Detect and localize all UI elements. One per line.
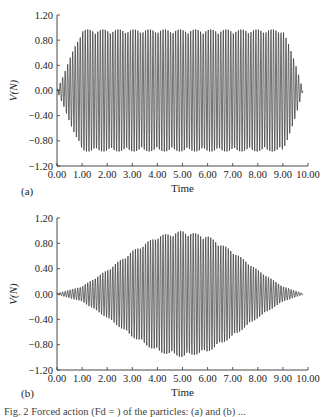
x-tick-label: 8.00 bbox=[249, 169, 267, 180]
x-tick-label: 10.00 bbox=[296, 373, 320, 384]
x-tick-label: 9.00 bbox=[274, 169, 292, 180]
chart-b: 1.200.800.400.00−0.40−0.80−1.200.001.002… bbox=[7, 213, 320, 401]
y-tick-label: 0.40 bbox=[35, 60, 53, 71]
y-tick-label: 1.20 bbox=[35, 213, 53, 224]
y-tick-label: −0.40 bbox=[29, 314, 53, 325]
x-tick-label: 7.00 bbox=[224, 169, 242, 180]
x-tick-label: 8.00 bbox=[249, 373, 267, 384]
y-tick-label: 0.80 bbox=[35, 238, 53, 249]
y-tick-label: 1.20 bbox=[35, 10, 53, 21]
y-tick-label: 0.00 bbox=[35, 289, 53, 300]
x-tick-label: 0.00 bbox=[48, 373, 66, 384]
x-tick-label: 9.00 bbox=[274, 373, 292, 384]
x-tick-label: 2.00 bbox=[98, 373, 116, 384]
x-axis-title: Time bbox=[171, 386, 194, 398]
y-tick-label: 0.00 bbox=[35, 85, 53, 96]
signal-line bbox=[57, 29, 303, 151]
y-tick-label: −0.80 bbox=[29, 135, 53, 146]
x-tick-label: 1.00 bbox=[73, 169, 91, 180]
signal-line bbox=[57, 231, 303, 357]
x-tick-label: 6.00 bbox=[198, 169, 216, 180]
y-tick-label: 0.80 bbox=[35, 35, 53, 46]
x-tick-label: 10.00 bbox=[296, 169, 320, 180]
x-tick-label: 3.00 bbox=[123, 169, 141, 180]
y-axis-title: V(N) bbox=[7, 79, 20, 101]
y-tick-label: 0.40 bbox=[35, 263, 53, 274]
x-tick-label: 0.00 bbox=[48, 169, 66, 180]
x-tick-label: 7.00 bbox=[224, 373, 242, 384]
y-axis-title: V(N) bbox=[7, 283, 20, 305]
x-tick-label: 6.00 bbox=[198, 373, 216, 384]
panel-label: (b) bbox=[21, 387, 34, 400]
x-tick-label: 5.00 bbox=[173, 373, 191, 384]
x-axis-title: Time bbox=[171, 182, 194, 194]
y-tick-label: −0.80 bbox=[29, 339, 53, 350]
panel-label: (a) bbox=[21, 185, 34, 198]
x-tick-label: 5.00 bbox=[173, 169, 191, 180]
x-tick-label: 4.00 bbox=[148, 169, 166, 180]
x-tick-label: 1.00 bbox=[73, 373, 91, 384]
x-tick-label: 3.00 bbox=[123, 373, 141, 384]
figure: 1.200.800.400.00−0.40−0.80−1.200.001.002… bbox=[0, 0, 336, 417]
x-tick-label: 4.00 bbox=[148, 373, 166, 384]
chart-a: 1.200.800.400.00−0.40−0.80−1.200.001.002… bbox=[7, 10, 320, 199]
y-tick-label: −0.40 bbox=[29, 110, 53, 121]
x-tick-label: 2.00 bbox=[98, 169, 116, 180]
figure-caption: Fig. 2 Forced action (Fd = ) of the part… bbox=[4, 406, 246, 417]
